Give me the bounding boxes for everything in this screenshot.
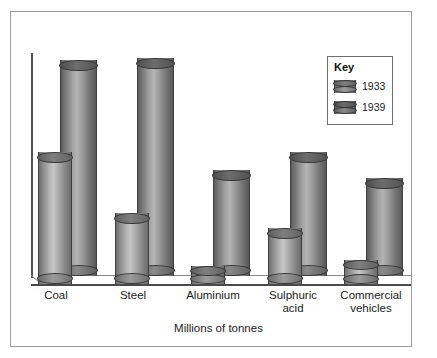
x-tick-label-aluminium: Aluminium (172, 289, 254, 302)
bar-cap-top (114, 213, 150, 224)
x-tick-label-steel: Steel (100, 289, 166, 302)
bar-cap-top (59, 60, 98, 71)
legend-title: Key (334, 61, 354, 73)
plot-area: Coal Steel Aluminium Sulphuric acid Comm… (0, 0, 437, 358)
y-axis-line (31, 53, 33, 278)
legend-swatch-1939 (334, 101, 356, 114)
bar-cap-bottom (343, 274, 379, 284)
swatch-cap-top (333, 101, 357, 108)
bar-cap-top (136, 58, 175, 69)
bar-aluminium-1939 (213, 170, 250, 276)
x-tick-label-coal: Coal (23, 289, 89, 302)
bar-cap-bottom (114, 273, 150, 284)
x-tick-label-commercial-vehicles: Commercial vehicles (327, 289, 415, 315)
x-axis-title: Millions of tonnes (0, 322, 437, 334)
legend-box: Key 1933 1939 (327, 56, 393, 125)
x-tick-label-sulphuric-acid: Sulphuric acid (254, 289, 332, 315)
bar-cap-bottom (267, 273, 303, 284)
x-axis-baseline (31, 284, 411, 286)
bar-body (213, 170, 250, 276)
chart-figure: Coal Steel Aluminium Sulphuric acid Comm… (0, 0, 437, 358)
swatch-cap-top (333, 80, 357, 87)
bar-cap-top (343, 260, 379, 270)
legend-label-1939: 1939 (362, 101, 385, 113)
bar-cap-top (365, 178, 404, 189)
bar-steel-1933 (115, 213, 149, 284)
bar-commercial-vehicles-1933 (344, 260, 378, 284)
bar-body (38, 152, 72, 284)
bar-aluminium-1933 (191, 266, 225, 284)
bar-sulphuric-acid-1933 (268, 228, 302, 284)
bar-cap-bottom (37, 273, 73, 284)
swatch-cap-bottom (333, 107, 357, 114)
bar-cap-top (190, 266, 226, 276)
legend-label-1933: 1933 (362, 80, 385, 92)
bar-cap-top (212, 170, 251, 181)
bar-coal-1933 (38, 152, 72, 284)
bar-cap-top (289, 152, 328, 163)
swatch-cap-bottom (333, 86, 357, 93)
bar-cap-top (267, 228, 303, 239)
bar-cap-top (37, 152, 73, 163)
legend-swatch-1933 (334, 80, 356, 93)
